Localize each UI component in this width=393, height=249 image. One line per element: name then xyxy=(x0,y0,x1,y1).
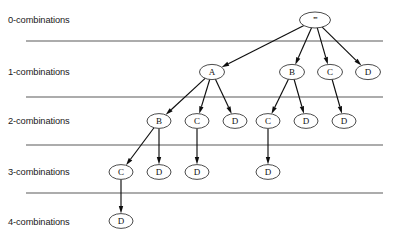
node-label: D xyxy=(118,216,125,226)
tree-node-n-3-ACD[interactable]: D xyxy=(185,165,209,180)
tree-edge-e-root-A xyxy=(222,26,304,68)
edge-shaft xyxy=(171,78,205,109)
tree-edge-e-root-C xyxy=(317,28,328,65)
edge-arrowhead xyxy=(271,106,276,114)
edge-shaft xyxy=(298,28,311,58)
tree-node-n-1-C[interactable]: C xyxy=(318,64,343,79)
tree-node-n-3-ABC[interactable]: C xyxy=(109,165,133,180)
tree-edge-e-BC-D xyxy=(266,128,270,164)
node-label: D xyxy=(156,167,163,177)
edge-arrowhead xyxy=(226,106,231,114)
edge-shaft xyxy=(322,27,356,60)
row-label-3-combinations: 3-combinations xyxy=(8,167,70,177)
node-label: B xyxy=(156,116,162,126)
tree-edge-e-AB-D xyxy=(157,128,161,164)
row-label-4-combinations: 4-combinations xyxy=(8,217,70,227)
node-label: C xyxy=(265,116,271,126)
tree-node-n-4-ABCD[interactable]: D xyxy=(109,214,133,229)
edge-arrowhead xyxy=(195,157,199,165)
node-label: C xyxy=(118,167,124,177)
tree-node-n-1-B[interactable]: B xyxy=(280,64,305,79)
combinations-tree-figure: ''''ABCDBCDCDDCDDDD 0-combinations1-comb… xyxy=(0,0,393,249)
edge-arrowhead xyxy=(324,57,328,65)
edge-shaft xyxy=(228,26,304,64)
tree-node-n-2-CD[interactable]: D xyxy=(332,114,356,129)
node-label: D xyxy=(365,67,372,77)
node-label: D xyxy=(194,167,201,177)
edge-shaft xyxy=(332,79,340,106)
edge-shaft xyxy=(317,28,325,57)
edge-arrowhead xyxy=(295,57,300,65)
row-label-2-combinations: 2-combinations xyxy=(8,116,70,126)
edge-shaft xyxy=(201,79,209,106)
edge-shaft xyxy=(294,79,302,106)
tree-node-n-2-AB[interactable]: B xyxy=(147,114,171,129)
edge-shaft xyxy=(215,79,228,107)
tree-node-n-3-ABD[interactable]: D xyxy=(147,165,171,180)
node-label: D xyxy=(232,116,239,126)
tree-node-n-2-BD[interactable]: D xyxy=(294,114,318,129)
node-label: C xyxy=(194,116,200,126)
row-label-1-combinations: 1-combinations xyxy=(8,67,70,77)
node-label: C xyxy=(327,67,333,77)
tree-node-n-2-AD[interactable]: D xyxy=(223,114,247,129)
node-label: D xyxy=(265,167,272,177)
edge-arrowhead xyxy=(199,106,203,114)
tree-edge-e-ABC-D xyxy=(119,179,123,213)
tree-edge-e-root-B xyxy=(295,28,311,65)
edge-arrowhead xyxy=(338,106,342,114)
edge-arrowhead xyxy=(119,206,123,214)
edge-arrowhead xyxy=(300,106,304,114)
edge-arrowhead xyxy=(266,157,270,165)
node-label: D xyxy=(303,116,310,126)
edge-shaft xyxy=(130,128,154,160)
node-label: B xyxy=(289,67,295,77)
row-labels: 0-combinations1-combinations2-combinatio… xyxy=(8,15,70,227)
edge-arrowhead xyxy=(157,157,161,165)
tree-node-n-1-D[interactable]: D xyxy=(356,64,381,79)
tree-edge-e-root-D xyxy=(322,27,361,65)
node-label: D xyxy=(341,116,348,126)
tree-node-n-1-A[interactable]: A xyxy=(200,64,225,79)
tree-node-n-3-BCD[interactable]: D xyxy=(256,165,280,180)
edge-shaft xyxy=(275,79,289,107)
node-label: A xyxy=(209,67,216,77)
tree-node-n-2-BC[interactable]: C xyxy=(256,114,280,129)
row-label-0-combinations: 0-combinations xyxy=(8,15,70,25)
combinations-tree-diagram: ''''ABCDBCDCDDCDDDD 0-combinations1-comb… xyxy=(0,0,393,249)
edge-arrowhead xyxy=(222,62,230,67)
tree-node-n-root[interactable]: '''' xyxy=(300,12,331,28)
tree-node-n-2-AC[interactable]: C xyxy=(185,114,209,129)
tree-edge-e-AC-D xyxy=(195,128,199,164)
tree-edge-e-AB-C xyxy=(126,128,154,166)
